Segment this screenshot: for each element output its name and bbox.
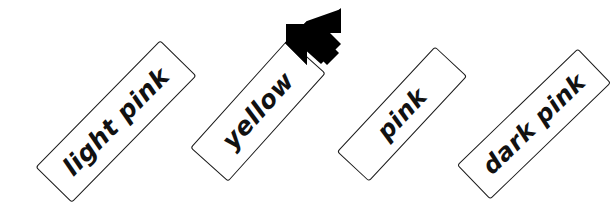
card-yellow-label: yellow [192,41,325,181]
card-dark-pink-label: dark pink [458,50,609,198]
card-yellow[interactable]: yellow [190,39,326,182]
card-pink-label: pink [338,48,466,180]
card-light-pink-label: light pink [37,42,195,202]
card-dark-pink[interactable]: dark pink [457,48,611,199]
card-pink[interactable]: pink [337,46,467,181]
card-light-pink[interactable]: light pink [35,40,196,203]
